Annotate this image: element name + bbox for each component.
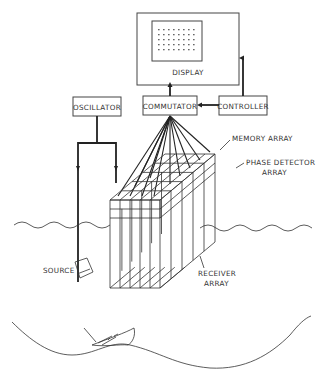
controller-label: CONTROLLER — [217, 102, 269, 111]
display-label: DISPLAY — [172, 68, 204, 77]
receiver-label-2: ARRAY — [204, 279, 229, 288]
seabed-contour — [12, 316, 311, 368]
memory-array-label: MEMORY ARRAY — [232, 134, 293, 143]
phase-detector-label-1: PHASE DETECTOR — [246, 158, 315, 167]
submerged-object — [84, 328, 135, 346]
receiver-array — [110, 154, 215, 288]
commutator-label: COMMUTATOR — [143, 102, 198, 111]
receiver-label-1: RECEIVER — [198, 269, 236, 278]
source-label: SOURCE — [43, 266, 75, 275]
commutator-block: COMMUTATOR — [143, 96, 198, 115]
arrow-left-icon — [197, 103, 202, 108]
water-surface — [14, 222, 312, 231]
arrow-left-icon — [239, 56, 244, 61]
diagram-svg: DISPLAY OSCILLATOR COMMUTATOR CONTROLLER — [0, 0, 322, 379]
arrow-down-icon — [114, 166, 118, 171]
sonar-system-diagram: DISPLAY OSCILLATOR COMMUTATOR CONTROLLER — [0, 0, 322, 379]
controller-block: CONTROLLER — [217, 96, 269, 115]
arrow-down-icon — [76, 166, 80, 171]
display-block: DISPLAY — [137, 13, 239, 85]
phase-detector-label-2: ARRAY — [262, 168, 287, 177]
oscillator-label: OSCILLATOR — [73, 103, 121, 112]
oscillator-block: OSCILLATOR — [73, 97, 121, 116]
array-to-commutator-rays — [118, 116, 210, 196]
source-transducer: SOURCE — [43, 258, 93, 278]
